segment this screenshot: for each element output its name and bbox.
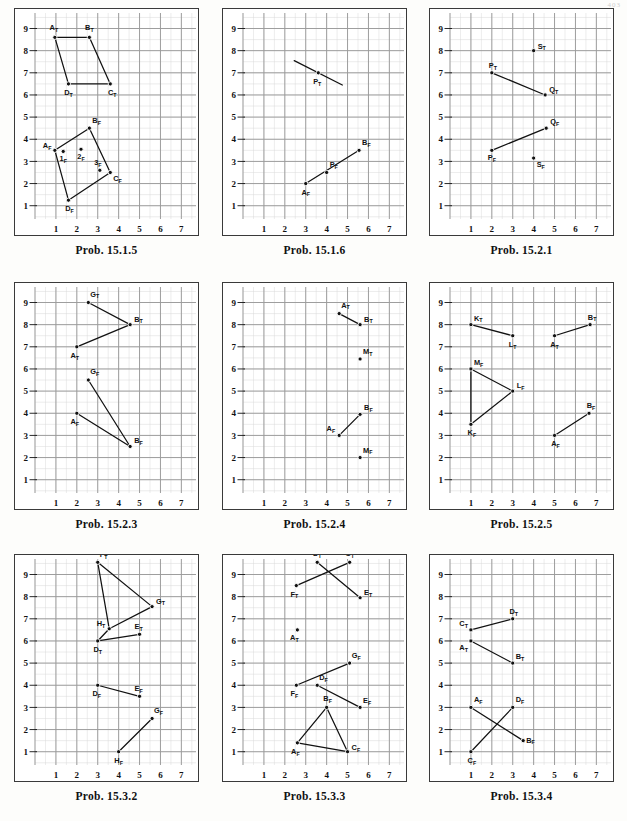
svg-text:3: 3 bbox=[232, 157, 237, 167]
point-label-EF: EF bbox=[134, 684, 143, 694]
svg-text:6: 6 bbox=[439, 636, 444, 646]
point-label-DF: DF bbox=[319, 673, 328, 683]
panel-caption-p1521: Prob. 15.2.1 bbox=[429, 244, 614, 256]
plot-grid-p1521: 1234567123456789PTQTSTPFQFSF bbox=[429, 8, 614, 236]
point-label-AT: AT bbox=[290, 633, 299, 643]
svg-text:2: 2 bbox=[75, 224, 80, 234]
point-label-DT: DT bbox=[93, 645, 102, 655]
point-label-ET: ET bbox=[364, 588, 373, 598]
point-label-AF: AF bbox=[291, 747, 300, 757]
svg-text:5: 5 bbox=[439, 386, 444, 396]
svg-text:3: 3 bbox=[24, 157, 29, 167]
top-view-line-ab bbox=[339, 314, 360, 325]
svg-text:5: 5 bbox=[24, 112, 29, 122]
svg-text:9: 9 bbox=[439, 24, 444, 34]
svg-text:1: 1 bbox=[262, 498, 267, 508]
svg-text:2: 2 bbox=[490, 498, 495, 508]
point-AF bbox=[53, 148, 57, 152]
svg-text:3: 3 bbox=[510, 224, 515, 234]
svg-text:6: 6 bbox=[366, 770, 371, 780]
point-AT bbox=[295, 628, 299, 632]
point-CF bbox=[108, 170, 112, 174]
point-HF bbox=[117, 750, 121, 754]
point-GT bbox=[86, 300, 90, 304]
front-view-line-ab bbox=[77, 413, 130, 446]
svg-text:1: 1 bbox=[469, 770, 474, 780]
point-label-PT: PT bbox=[313, 77, 322, 87]
plot-grid-p1525: 1234567123456789KTLTATBTMFLFKFAFBF bbox=[429, 282, 614, 510]
minor-gridlines bbox=[243, 559, 404, 765]
svg-text:8: 8 bbox=[24, 320, 29, 330]
svg-text:5: 5 bbox=[552, 770, 557, 780]
point-label-PF: PF bbox=[488, 153, 497, 163]
figure-edges bbox=[98, 562, 152, 751]
point-PT bbox=[316, 71, 320, 75]
plot-grid-p1532: 1234567123456789FTGTHTDTETDFEFGFHF bbox=[14, 554, 199, 782]
point-label-DF: DF bbox=[92, 689, 101, 699]
svg-text:2: 2 bbox=[439, 179, 444, 189]
svg-text:9: 9 bbox=[24, 24, 29, 34]
point-label-AF: AF bbox=[301, 188, 310, 198]
svg-text:4: 4 bbox=[439, 680, 444, 690]
point-DF bbox=[315, 683, 319, 687]
panel-caption-p1532: Prob. 15.3.2 bbox=[14, 790, 199, 802]
svg-text:9: 9 bbox=[232, 24, 237, 34]
svg-text:2: 2 bbox=[75, 770, 80, 780]
svg-text:8: 8 bbox=[24, 592, 29, 602]
point-label-LT: LT bbox=[509, 340, 518, 350]
svg-text:7: 7 bbox=[594, 498, 599, 508]
point-3F bbox=[98, 168, 102, 172]
major-gridlines bbox=[35, 559, 196, 765]
svg-text:3: 3 bbox=[303, 224, 308, 234]
svg-text:1: 1 bbox=[54, 498, 59, 508]
point-label-2F: 2F bbox=[77, 152, 85, 162]
point-label-DT: DT bbox=[64, 88, 73, 98]
plot-grid-p1524: 1234567123456789ATBTMTAFBFMF bbox=[222, 282, 407, 510]
svg-text:2: 2 bbox=[490, 224, 495, 234]
front-view-line-gh bbox=[119, 718, 152, 751]
svg-text:6: 6 bbox=[232, 636, 237, 646]
svg-text:4: 4 bbox=[232, 680, 237, 690]
svg-text:5: 5 bbox=[137, 224, 142, 234]
point-BT bbox=[588, 323, 592, 327]
svg-text:3: 3 bbox=[95, 224, 100, 234]
svg-text:7: 7 bbox=[232, 68, 237, 78]
problem-panel-p1523: 1234567123456789GTBTATGFAFBFProb. 15.2.3 bbox=[14, 282, 223, 555]
point-AF bbox=[337, 433, 341, 437]
point-AT bbox=[337, 311, 341, 315]
point-FF bbox=[294, 683, 298, 687]
point-GT bbox=[348, 560, 352, 564]
point-label-AF: AF bbox=[71, 417, 80, 427]
svg-text:7: 7 bbox=[24, 614, 29, 624]
point-label-AT: AT bbox=[459, 643, 468, 653]
point-ET bbox=[358, 596, 362, 600]
point-EF bbox=[358, 705, 362, 709]
point-label-BF: BF bbox=[92, 116, 101, 126]
point-label-GF: GF bbox=[154, 706, 164, 716]
point-label-MF: MF bbox=[363, 446, 373, 456]
problem-panel-p1515: 1234567123456789ATBTCTDTAFBFCFDF1F2F3FPr… bbox=[14, 8, 223, 281]
point-KF bbox=[469, 422, 473, 426]
svg-text:6: 6 bbox=[366, 224, 371, 234]
svg-text:6: 6 bbox=[24, 636, 29, 646]
problem-panel-p1524: 1234567123456789ATBTMTAFBFMFProb. 15.2.4 bbox=[222, 282, 431, 555]
svg-text:5: 5 bbox=[552, 224, 557, 234]
point-label-EF: EF bbox=[363, 696, 372, 706]
point-LT bbox=[511, 334, 515, 338]
point-FT bbox=[96, 560, 100, 564]
point-label-AT: AT bbox=[50, 23, 59, 33]
point-label-AF: AF bbox=[474, 695, 483, 705]
point-AT bbox=[469, 639, 473, 643]
minor-gridlines bbox=[450, 13, 611, 219]
point-GF bbox=[348, 661, 352, 665]
point-label-BT: BT bbox=[516, 652, 525, 662]
svg-text:7: 7 bbox=[232, 614, 237, 624]
point-label-KF: KF bbox=[468, 428, 477, 438]
svg-text:9: 9 bbox=[232, 298, 237, 308]
point-MT bbox=[358, 357, 362, 361]
svg-text:9: 9 bbox=[439, 570, 444, 580]
point-DT bbox=[511, 617, 515, 621]
point-label-CF: CF bbox=[468, 756, 477, 766]
svg-text:1: 1 bbox=[54, 770, 59, 780]
major-gridlines bbox=[35, 287, 196, 493]
